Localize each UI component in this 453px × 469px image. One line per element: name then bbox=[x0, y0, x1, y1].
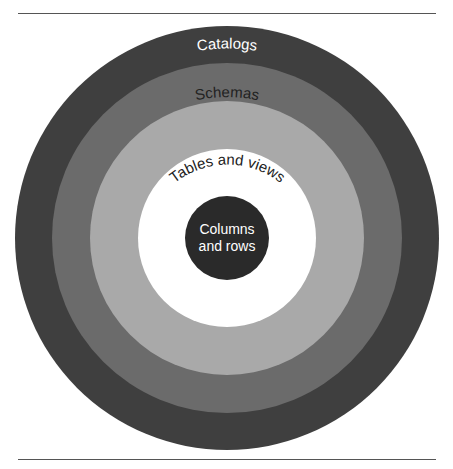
bottom-rule bbox=[18, 459, 436, 460]
nested-layers-diagram: Clusters Catalogs Schemas Tables and vie… bbox=[0, 0, 453, 469]
label-catalogs: Catalogs bbox=[196, 35, 259, 54]
label-and-rows: and rows bbox=[199, 238, 256, 254]
label-columns: Columns bbox=[199, 221, 254, 237]
